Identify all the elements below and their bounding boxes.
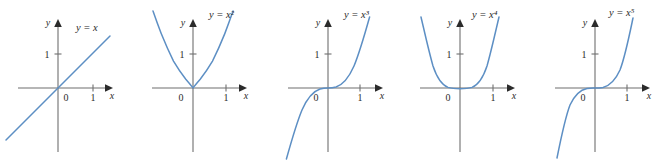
equation-label-5: y = x⁵ xyxy=(608,7,635,18)
equation-label-2: y = x² xyxy=(208,9,235,20)
x-axis-label: x xyxy=(379,90,385,101)
y-axis-arrowhead xyxy=(324,19,332,27)
x-tick-label-1: 1 xyxy=(491,92,496,103)
origin-label: 0 xyxy=(446,92,451,103)
x-axis-label: x xyxy=(109,90,115,101)
graph-canvas-2: y x 0 1 1 y = x² xyxy=(135,0,269,167)
origin-label: 0 xyxy=(581,92,586,103)
x-axis-label: x xyxy=(243,90,249,101)
y-tick-label-1: 1 xyxy=(447,49,452,60)
x-tick-label-1: 1 xyxy=(625,92,630,103)
graph-canvas-4: y x 0 1 1 y = x⁴ xyxy=(402,0,536,167)
graph-canvas-3: y x 0 1 1 y = x³ xyxy=(270,0,404,167)
y-axis-label: y xyxy=(315,17,321,28)
y-axis-label: y xyxy=(180,17,186,28)
origin-label: 0 xyxy=(314,92,319,103)
y-tick-label-1: 1 xyxy=(315,49,320,60)
graph-panel-5: y x 0 1 1 y = x⁵ xyxy=(537,0,669,167)
y-axis-label: y xyxy=(582,17,588,28)
graph-panel-4: y x 0 1 1 y = x⁴ xyxy=(402,0,536,167)
graph-panel-1: y x 0 1 1 y = x xyxy=(0,0,134,167)
y-axis-label: y xyxy=(45,17,51,28)
y-tick-label-1: 1 xyxy=(582,49,587,60)
origin-label: 0 xyxy=(179,92,184,103)
y-axis-label: y xyxy=(447,17,453,28)
graph-panel-3: y x 0 1 1 y = x³ xyxy=(270,0,404,167)
y-axis-arrowhead xyxy=(456,19,464,27)
graph-panel-2: y x 0 1 1 y = x² xyxy=(135,0,269,167)
x-tick-label-1: 1 xyxy=(91,92,96,103)
y-tick-label-1: 1 xyxy=(45,49,50,60)
x-tick-label-1: 1 xyxy=(224,92,229,103)
graph-canvas-5: y x 0 1 1 y = x⁵ xyxy=(537,0,669,167)
y-axis-arrowhead xyxy=(54,19,62,27)
y-tick-label-1: 1 xyxy=(180,49,185,60)
y-axis-arrowhead xyxy=(591,19,599,27)
y-axis-arrowhead xyxy=(189,19,197,27)
equation-label-1: y = x xyxy=(75,22,98,33)
graph-canvas-1: y x 0 1 1 y = x xyxy=(0,0,134,167)
x-tick-label-1: 1 xyxy=(358,92,363,103)
x-axis-label: x xyxy=(646,90,652,101)
equation-label-4: y = x⁴ xyxy=(471,9,498,20)
power-function-graphs-figure: y x 0 1 1 y = x y x 0 1 1 y = x² xyxy=(0,0,669,167)
x-axis-label: x xyxy=(511,90,517,101)
equation-label-3: y = x³ xyxy=(343,9,370,20)
origin-label: 0 xyxy=(64,92,69,103)
